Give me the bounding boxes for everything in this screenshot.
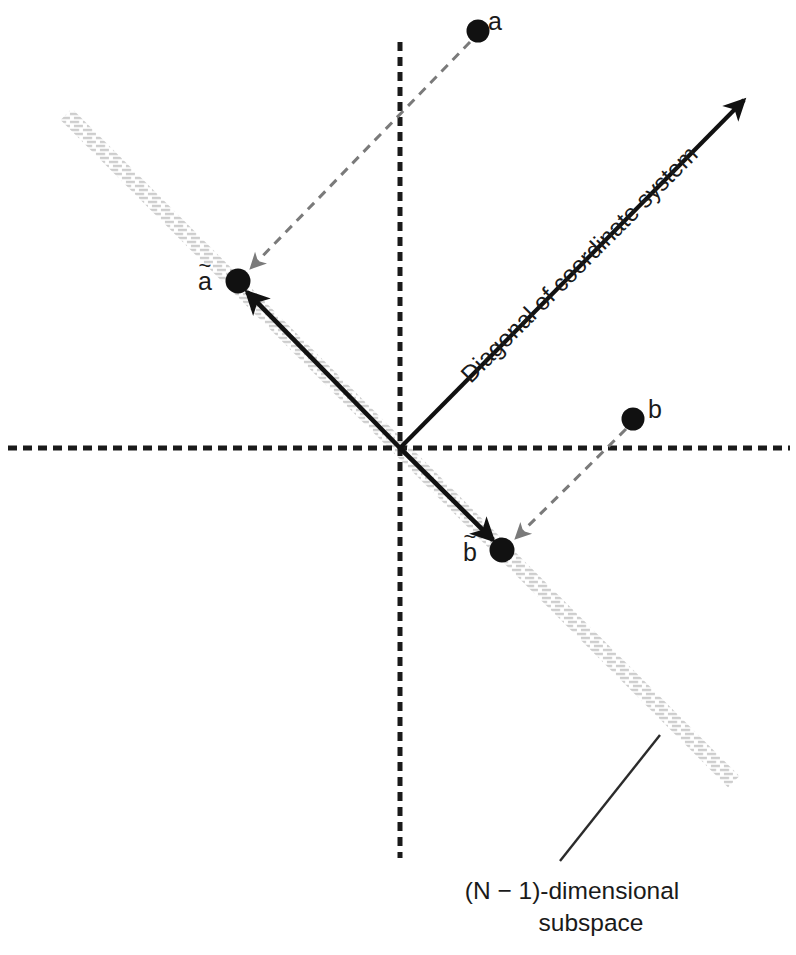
- point-label-b-tilde: ~ b: [463, 539, 477, 565]
- point-label-a: a: [488, 8, 502, 34]
- point-label-b: b: [648, 396, 662, 422]
- point-label-a-tilde: ~ a: [198, 268, 212, 294]
- projection-a-to-a-tilde: [251, 42, 470, 268]
- subspace-caption-line-2: subspace: [432, 907, 712, 939]
- diagonal-axis-label: Diagonal of coordinate system: [455, 140, 702, 387]
- point-a-tilde: [226, 269, 251, 294]
- tilde-accent-b: ~: [463, 526, 477, 548]
- vector-origin-to-b-tilde: [400, 448, 493, 540]
- point-a: [467, 20, 490, 43]
- subspace-caption-leader-line: [560, 735, 660, 861]
- subspace-caption: (N − 1)-dimensional subspace: [432, 875, 712, 940]
- vector-origin-to-a-tilde: [247, 292, 400, 448]
- diagram-svg: Diagonal of coordinate system: [0, 0, 796, 955]
- point-b: [622, 408, 645, 431]
- figure-canvas: Diagonal of coordinate system a b ~ a ~ …: [0, 0, 796, 955]
- tilde-accent-a: ~: [198, 255, 212, 277]
- projection-b-to-b-tilde: [516, 429, 626, 538]
- point-b-tilde: [490, 538, 515, 563]
- subspace-caption-line-1: (N − 1)-dimensional: [432, 875, 712, 907]
